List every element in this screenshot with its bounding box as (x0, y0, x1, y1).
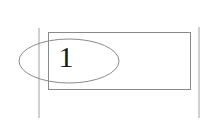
diagram-label: 1 (59, 40, 74, 73)
diagram-canvas: 1 (0, 0, 211, 140)
